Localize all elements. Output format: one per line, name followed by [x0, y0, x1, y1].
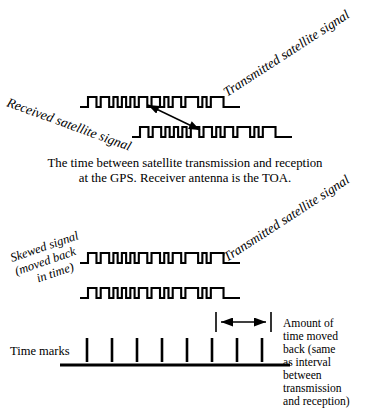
right-note-line5: between: [283, 369, 322, 382]
right-note-line6: transmission: [283, 382, 342, 395]
skewed-signal-transmitted: [80, 253, 240, 263]
toa-caption-line1: The time between satellite transmission …: [47, 156, 323, 170]
right-note-line7: and reception): [283, 395, 350, 408]
transmitted-satellite-signal-top: [80, 97, 240, 107]
time-marks-axis: [60, 338, 290, 365]
gps-toa-figure: Transmitted satellite signal Received sa…: [0, 0, 370, 419]
right-note-line2: time moved: [283, 330, 338, 343]
label-transmitted-satellite-signal-top: Transmitted satellite signal: [220, 7, 352, 100]
amount-of-time-moved-back-bracket: [216, 312, 271, 332]
label-transmitted-satellite-signal-bottom: Transmitted satellite signal: [220, 172, 352, 265]
label-skewed-signal: Skewed signal (moved back in time): [8, 228, 89, 291]
figure-canvas: Transmitted satellite signal Received sa…: [0, 0, 370, 419]
label-time-marks: Time marks: [10, 344, 70, 358]
right-note-line4: as interval: [283, 356, 331, 369]
waveform-group: [80, 97, 292, 298]
right-note: Amount of time moved back (same as inter…: [283, 317, 350, 408]
right-note-line1: Amount of: [283, 317, 334, 330]
toa-caption-line2: at the GPS. Receiver antenna is the TOA.: [79, 171, 291, 185]
right-note-line3: back (same: [283, 343, 335, 356]
skewed-signal-moved-back: [80, 288, 240, 298]
received-satellite-signal: [132, 127, 292, 137]
